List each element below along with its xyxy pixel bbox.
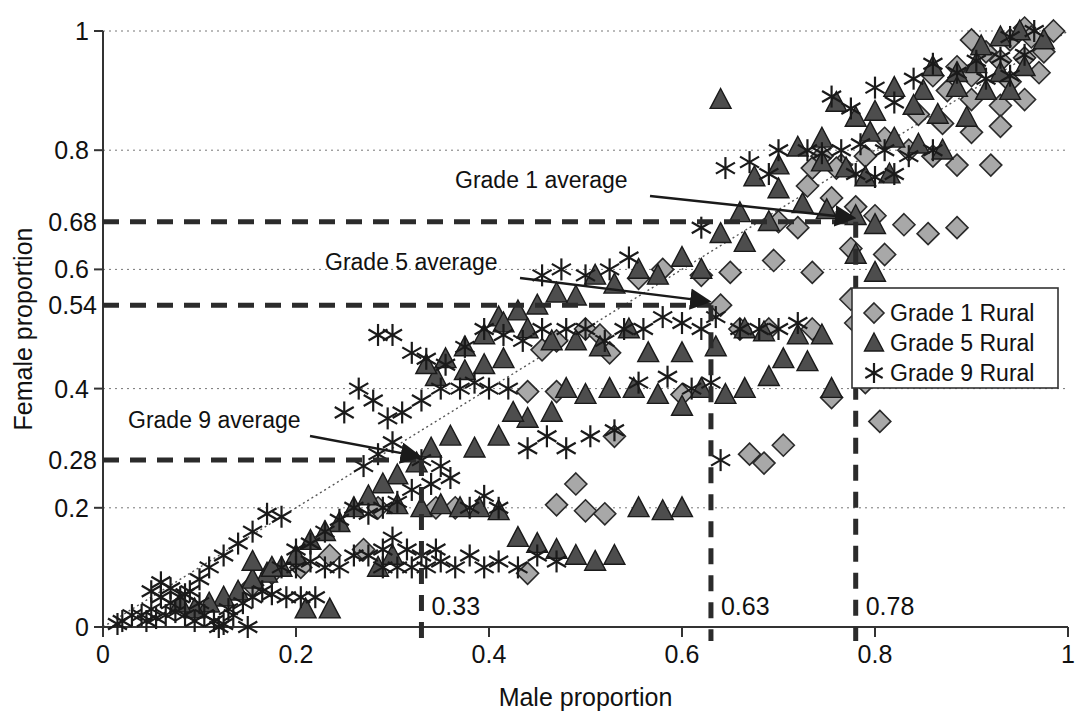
- x-tick-label: 0.4: [472, 640, 507, 668]
- data-point: [773, 348, 794, 368]
- reference-label-y: 0.54: [48, 291, 97, 319]
- data-point: [927, 103, 948, 123]
- data-point: [599, 378, 620, 398]
- data-point: [672, 312, 691, 334]
- data-point: [474, 354, 495, 374]
- data-point: [387, 464, 408, 484]
- y-tick-label: 1: [75, 17, 89, 45]
- data-point: [557, 437, 576, 459]
- y-tick-label: 0.4: [54, 375, 89, 403]
- data-point: [533, 264, 552, 286]
- data-point: [691, 258, 712, 278]
- data-point: [541, 401, 562, 421]
- data-point: [503, 401, 524, 421]
- data-point: [517, 381, 539, 403]
- data-point: [647, 384, 668, 404]
- data-point: [821, 378, 842, 398]
- data-point: [431, 455, 450, 477]
- data-point: [464, 437, 485, 457]
- data-point: [865, 77, 884, 99]
- data-point: [499, 378, 518, 400]
- data-point: [565, 285, 586, 305]
- data-point: [854, 145, 876, 167]
- legend-label: Grade 1 Rural: [890, 300, 1034, 326]
- data-point: [956, 106, 977, 126]
- annotation-label: Grade 9 average: [128, 407, 301, 433]
- scatter-plot: 00.20.40.60.8100.20.40.60.810.680.780.54…: [0, 0, 1082, 719]
- data-point: [658, 366, 677, 388]
- data-point: [865, 100, 886, 120]
- data-point: [917, 223, 939, 245]
- data-point: [796, 175, 818, 197]
- y-axis-title: Female proportion: [9, 228, 37, 431]
- data-point: [565, 473, 587, 495]
- data-point: [893, 214, 915, 236]
- y-tick-label: 0.8: [54, 136, 89, 164]
- data-point: [989, 115, 1011, 137]
- annotation-arrow: [310, 436, 417, 456]
- data-point: [672, 342, 693, 362]
- annotation-label: Grade 1 average: [455, 167, 628, 193]
- data-point: [517, 318, 538, 338]
- data-point: [711, 449, 730, 471]
- data-point: [585, 550, 606, 570]
- data-point: [518, 437, 537, 459]
- data-point: [628, 497, 649, 517]
- data-point: [426, 539, 445, 561]
- data-point: [431, 550, 450, 572]
- data-point: [874, 244, 896, 266]
- data-point: [402, 342, 421, 364]
- data-point: [638, 342, 659, 362]
- data-point: [652, 500, 673, 520]
- data-point: [319, 544, 341, 566]
- data-point: [565, 544, 586, 564]
- data-point: [716, 157, 735, 179]
- data-point: [865, 261, 886, 281]
- data-point: [368, 324, 387, 346]
- data-point: [537, 425, 556, 447]
- data-point: [421, 437, 442, 457]
- data-point: [242, 550, 263, 570]
- data-point: [440, 425, 461, 445]
- data-point: [734, 378, 755, 398]
- annotation-label: Grade 5 average: [325, 249, 498, 275]
- data-point: [575, 500, 597, 522]
- data-point: [489, 550, 508, 572]
- x-tick-label: 1: [1061, 640, 1075, 668]
- data-point: [493, 348, 514, 368]
- data-point: [719, 261, 741, 283]
- data-point: [653, 306, 672, 328]
- reference-label-x: 0.63: [721, 592, 770, 620]
- data-point: [763, 249, 785, 271]
- data-point: [946, 217, 968, 239]
- data-point: [412, 390, 431, 412]
- legend-label: Grade 5 Rural: [890, 330, 1034, 356]
- y-tick-label: 0: [75, 613, 89, 641]
- reference-label-y: 0.28: [48, 446, 97, 474]
- data-point: [594, 503, 616, 525]
- data-point: [108, 613, 127, 635]
- data-point: [451, 378, 470, 400]
- data-point: [393, 401, 412, 423]
- data-point: [801, 261, 823, 283]
- data-point: [546, 282, 567, 302]
- data-point: [758, 366, 779, 386]
- x-axis-title: Male proportion: [499, 683, 673, 711]
- data-point: [546, 494, 568, 516]
- data-point: [787, 136, 808, 156]
- data-point: [441, 467, 460, 489]
- data-point: [422, 473, 441, 495]
- data-point: [797, 351, 818, 371]
- data-point: [604, 544, 625, 564]
- data-point: [792, 193, 813, 213]
- data-point: [628, 258, 649, 278]
- data-point: [710, 89, 731, 109]
- data-point: [710, 223, 731, 243]
- reference-label-y: 0.68: [48, 208, 97, 236]
- chart-container: 00.20.40.60.8100.20.40.60.810.680.780.54…: [0, 0, 1082, 719]
- legend-label: Grade 9 Rural: [890, 360, 1034, 386]
- data-point: [402, 556, 421, 578]
- data-point: [454, 360, 475, 380]
- data-point: [575, 384, 596, 404]
- data-point: [581, 425, 600, 447]
